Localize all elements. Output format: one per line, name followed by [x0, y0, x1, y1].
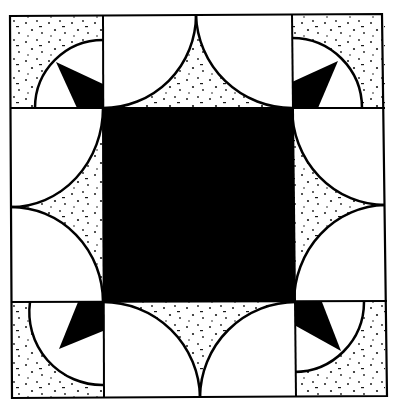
corner-cell-top-left	[11, 15, 103, 108]
center-black-square	[102, 107, 295, 302]
corner-cell-bottom-left	[11, 302, 103, 397]
corner-cell-bottom-right	[294, 302, 385, 397]
corner-cell-top-right	[292, 15, 385, 108]
edge-cell-left	[11, 108, 103, 302]
edge-cell-bottom	[103, 302, 296, 397]
edge-cell-top	[103, 15, 292, 108]
edge-cell-right	[292, 108, 385, 302]
quilt-block	[0, 0, 395, 410]
